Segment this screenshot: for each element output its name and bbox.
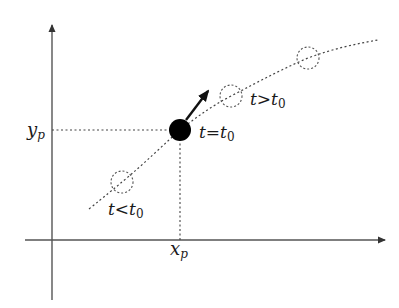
ghost-position-before [111, 171, 133, 193]
particle [169, 119, 191, 141]
xp-label: xp [170, 238, 188, 261]
trajectory-diagram: yp xp t=t0 t>t0 t<t0 [0, 0, 399, 308]
velocity-arrow [186, 91, 208, 120]
ghost-position-later [297, 47, 319, 69]
t-less-t0-label: t<t0 [108, 199, 144, 221]
t-equals-t0-label: t=t0 [199, 122, 235, 144]
yp-label: yp [26, 119, 45, 142]
t-greater-t0-label: t>t0 [250, 89, 286, 111]
